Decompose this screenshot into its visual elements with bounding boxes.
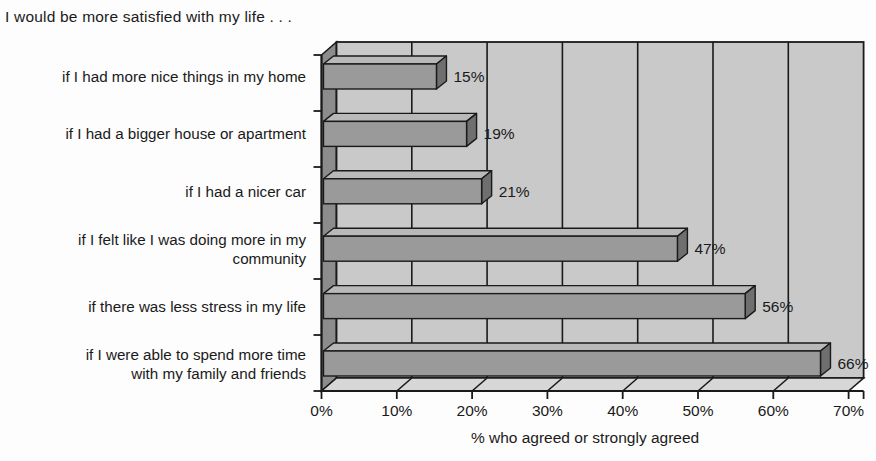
x-tick-label: 40% [607,402,638,419]
x-tick-label: 20% [457,402,488,419]
category-label-4: if there was less stress in my life [88,298,306,315]
category-label-line: if I felt like I was doing more in my [78,231,306,248]
category-label-line: if I were able to spend more time [86,346,306,363]
category-label-5: if I were able to spend more timewith my… [86,346,307,382]
chart-figure: I would be more satisfied with my life .… [0,0,876,461]
data-label: 21% [499,183,530,200]
category-label-line: if there was less stress in my life [88,298,306,315]
x-tick-label: 10% [381,402,412,419]
category-label-line: if I had a bigger house or apartment [65,125,306,142]
bar-chart-canvas: 15%19%21%47%56%66%0%10%20%30%40%50%60%70… [0,0,876,461]
data-label: 56% [762,298,793,315]
bar-row-1 [324,113,477,146]
bar-row-3 [324,228,688,261]
category-label-line: if I had a nicer car [185,183,306,200]
data-label: 15% [453,68,484,85]
category-label-line: community [233,250,307,267]
x-axis-title: % who agreed or strongly agreed [471,429,699,446]
bar-top-face [324,228,688,236]
bar-front-face [324,64,437,89]
category-label-line: with my family and friends [130,365,306,382]
chart-side-wall [322,42,337,391]
category-label-3: if I felt like I was doing more in mycom… [78,231,306,267]
x-tick-label: 30% [532,402,563,419]
category-label-line: if I had more nice things in my home [62,68,306,85]
bar-row-2 [324,171,492,204]
category-label-1: if I had a bigger house or apartment [65,125,306,142]
bar-front-face [324,236,678,261]
bar-front-face [324,294,746,319]
data-label: 19% [484,125,515,142]
bar-front-face [324,179,482,204]
bar-row-4 [324,286,756,319]
bar-top-face [324,286,756,294]
category-label-0: if I had more nice things in my home [62,68,306,85]
data-label: 66% [837,355,868,372]
x-tick-label: 50% [682,402,713,419]
bar-front-face [324,121,467,146]
x-tick-label: 70% [833,402,864,419]
bar-row-5 [324,343,831,376]
bar-front-face [324,351,821,376]
chart-back-wall [337,42,864,378]
x-tick-label: 0% [310,402,333,419]
chart-floor [322,378,864,391]
bar-top-face [324,343,831,351]
data-label: 47% [694,240,725,257]
bar-top-face [324,171,492,179]
bar-row-0 [324,56,447,89]
bar-top-face [324,56,447,64]
category-label-2: if I had a nicer car [185,183,306,200]
x-tick-label: 60% [758,402,789,419]
bar-top-face [324,113,477,121]
